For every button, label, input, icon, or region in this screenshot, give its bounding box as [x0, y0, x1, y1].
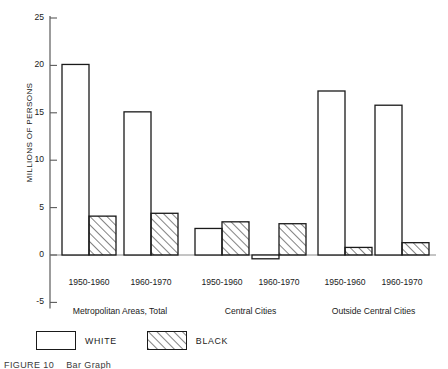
x-group-label: Outside Central Cities — [294, 306, 448, 316]
bar-white — [124, 112, 151, 255]
bar-white — [318, 91, 345, 255]
bar-white — [375, 105, 402, 255]
legend-label-black: BLACK — [196, 336, 228, 346]
legend-label-white: WHITE — [85, 336, 117, 346]
legend-item-white: WHITE — [36, 331, 117, 350]
hatched-rectangle-icon — [147, 331, 187, 350]
bar-white — [195, 228, 222, 255]
chart-legend: WHITE BLACK — [36, 331, 228, 350]
y-tick-label: 25 — [20, 12, 44, 22]
y-tick-label: 5 — [20, 202, 44, 212]
bar-black — [222, 222, 249, 255]
bars-layer — [62, 64, 429, 258]
bar-black — [279, 224, 306, 255]
bar-black — [151, 213, 178, 255]
figure-caption-number: FIGURE 10 — [4, 360, 54, 369]
bar-white — [62, 64, 89, 255]
legend-item-black: BLACK — [147, 331, 228, 350]
y-tick-label: 15 — [20, 107, 44, 117]
bar-white — [252, 255, 279, 259]
x-category-label: 1960-1970 — [116, 277, 186, 287]
bar-black — [402, 243, 429, 255]
x-category-label: 1960-1970 — [244, 277, 314, 287]
bar-graph-figure: MILLIONS OF PERSONS -50510152025 1950-19… — [0, 0, 448, 369]
bar-black — [89, 216, 116, 255]
figure-caption-text: Bar Graph — [66, 360, 111, 369]
x-category-label: 1950-1960 — [54, 277, 124, 287]
y-tick-label: 0 — [20, 249, 44, 259]
open-rectangle-icon — [36, 331, 76, 350]
figure-caption: FIGURE 10Bar Graph — [4, 360, 111, 369]
bar-black — [345, 247, 372, 255]
y-tick-label: -5 — [20, 296, 44, 306]
y-tick-label: 20 — [20, 59, 44, 69]
x-category-label: 1960-1970 — [367, 277, 437, 287]
y-tick-label: 10 — [20, 154, 44, 164]
